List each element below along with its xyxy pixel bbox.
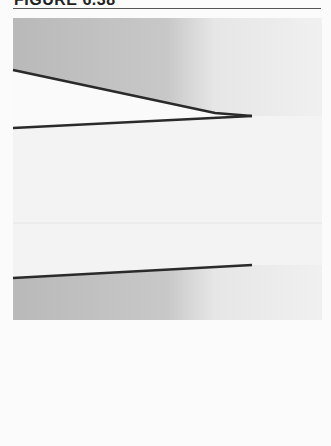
bleed-through-text xyxy=(13,330,313,440)
